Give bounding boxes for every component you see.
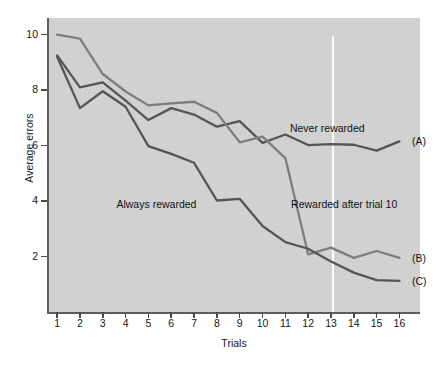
series-line-c [57,57,399,281]
end-label-a: (A) [412,135,426,147]
annotation-never-rewarded: Never rewarded [290,122,365,134]
y-axis-title: Average errors [23,93,35,203]
end-label-b: (B) [412,252,426,264]
chart-figure: 24681012345678910111213141516 Never rewa… [0,0,448,370]
series-line-b [57,35,399,258]
series-layer [0,0,448,370]
series-line-a [57,55,399,150]
end-label-c: (C) [412,275,427,287]
x-axis-title: Trials [48,337,420,349]
annotation-always-rewarded: Always rewarded [116,198,196,210]
annotation-rewarded-after-trial-10: Rewarded after trial 10 [291,198,397,210]
